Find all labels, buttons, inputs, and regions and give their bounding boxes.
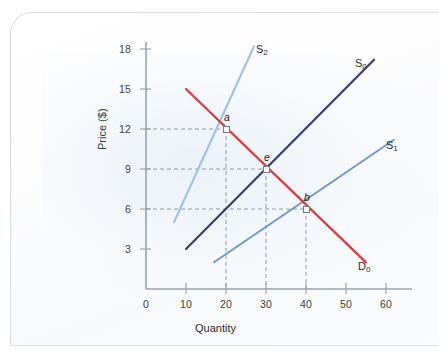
curve-s2	[174, 46, 254, 222]
y-tick-label-15: 15	[111, 83, 131, 95]
point-label-e: e	[264, 151, 270, 163]
y-tick-label-9: 9	[111, 163, 131, 175]
x-axis-title: Quantity	[195, 322, 236, 334]
curve-s0	[186, 60, 374, 249]
y-tick-label-18: 18	[111, 43, 131, 55]
x-tick-label-30: 30	[256, 298, 276, 310]
y-tick-label-3: 3	[111, 243, 131, 255]
x-tick-label-20: 20	[216, 298, 236, 310]
point-marker-e	[263, 166, 270, 173]
point-marker-a	[223, 126, 230, 133]
x-tick-label-0: 0	[136, 298, 156, 310]
curve-label-s1-sub: 1	[393, 144, 397, 153]
chart-axes	[146, 42, 412, 289]
curve-label-s0: S0	[355, 57, 367, 69]
curve-d0	[186, 89, 366, 262]
point-marker-b	[303, 206, 310, 213]
curve-label-s2-sub: 2	[263, 48, 267, 57]
point-label-b: b	[304, 191, 310, 203]
curve-label-s0-sub: 0	[362, 62, 366, 71]
x-tick-label-60: 60	[376, 298, 396, 310]
y-tick-label-6: 6	[111, 203, 131, 215]
curve-label-s2: S2	[256, 43, 268, 55]
y-tick-label-12: 12	[111, 123, 131, 135]
x-tick-label-10: 10	[176, 298, 196, 310]
curve-label-d0-sub: 0	[366, 265, 370, 274]
curve-label-d0-text: D	[358, 260, 366, 272]
x-tick-label-50: 50	[336, 298, 356, 310]
x-tick-label-40: 40	[296, 298, 316, 310]
point-label-a: a	[224, 111, 230, 123]
curve-label-s1: S1	[386, 139, 398, 151]
curve-label-d0: D0	[358, 260, 370, 272]
y-axis-title: Price ($)	[96, 108, 108, 150]
